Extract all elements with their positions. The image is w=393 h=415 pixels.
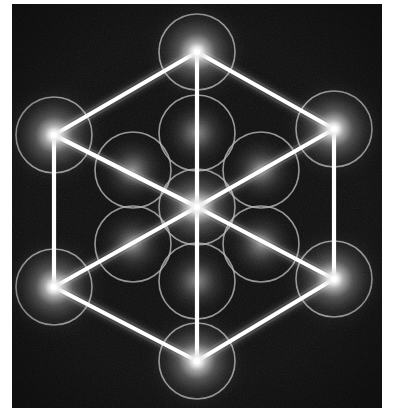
node-hex-lower-left [51,284,57,290]
artwork-frame [12,4,382,408]
node-hex-top [194,49,200,55]
node-hex-upper-right [331,126,337,132]
node-core-center [194,204,200,210]
node-hex-upper-left [51,132,57,138]
image-canvas [0,0,393,415]
node-hex-lower-right [331,276,337,282]
metatrons-cube-figure [12,4,382,408]
node-hex-bottom [194,358,200,364]
